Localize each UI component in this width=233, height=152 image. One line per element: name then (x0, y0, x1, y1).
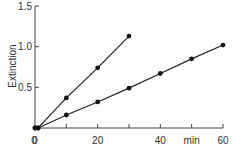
axes: 02040min6000.51.01.5 (18, 1, 229, 147)
series-shallow (33, 43, 226, 131)
x-tick-label: min (184, 135, 200, 146)
y-tick-label: 0 (31, 135, 37, 146)
x-tick-label: 20 (92, 135, 104, 146)
data-point (95, 65, 100, 70)
data-point (127, 86, 132, 91)
data-point (64, 113, 69, 118)
data-point (221, 43, 226, 48)
data-point (127, 34, 132, 39)
data-point (158, 71, 163, 76)
x-tick-label: 40 (155, 135, 167, 146)
data-point (189, 56, 194, 61)
data-point (64, 96, 69, 101)
y-tick-label: 1.5 (18, 1, 32, 12)
chart: 02040min6000.51.01.5 Extinction (0, 0, 233, 152)
x-tick-label: 60 (217, 135, 229, 146)
series-line (35, 36, 129, 128)
y-tick-label: 0.5 (18, 82, 32, 93)
series-steep (33, 34, 132, 131)
data-point (95, 100, 100, 105)
y-tick-label: 1.0 (18, 41, 32, 52)
data-series (33, 34, 226, 131)
y-axis-title: Extinction (7, 44, 18, 87)
data-point (36, 126, 41, 131)
